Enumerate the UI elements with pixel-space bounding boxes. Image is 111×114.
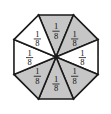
fraction-denominator: 8 bbox=[73, 38, 77, 48]
center-point bbox=[54, 55, 57, 58]
octagon-diagram: 1818181818181818 bbox=[0, 0, 111, 114]
fraction-figure: 1818181818181818 bbox=[0, 0, 111, 114]
fraction-denominator: 8 bbox=[80, 57, 84, 67]
fraction-denominator: 8 bbox=[27, 57, 31, 67]
fraction-denominator: 8 bbox=[73, 76, 77, 86]
fraction-denominator: 8 bbox=[35, 76, 39, 86]
fraction-denominator: 8 bbox=[35, 38, 39, 48]
fraction-denominator: 8 bbox=[54, 83, 58, 93]
fraction-denominator: 8 bbox=[54, 31, 58, 41]
